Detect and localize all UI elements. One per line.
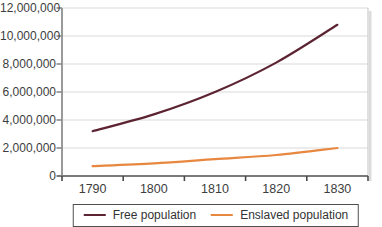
y-axis-label: 0 [0,170,56,182]
x-axis-label: 1800 [124,183,184,196]
y-axis-label: 4,000,000 [0,114,56,126]
legend-swatch-line [211,214,233,216]
legend-item-free-population: Free population [84,208,196,222]
x-axis-label: 1810 [185,183,245,196]
y-axis-label: 8,000,000 [0,58,56,70]
legend-label: Free population [113,208,196,222]
plot-shadow [369,11,372,181]
x-axis-label: 1820 [246,183,306,196]
y-axis-label: 6,000,000 [0,86,56,98]
y-axis-label: 10,000,000 [0,30,56,42]
y-axis-label: 12,000,000 [0,2,56,14]
chart-legend: Free populationEnslaved population [73,204,359,227]
legend-label: Enslaved population [240,208,348,222]
population-line-chart: 02,000,0004,000,0006,000,0008,000,00010,… [0,0,382,227]
x-axis-label: 1830 [307,183,367,196]
legend-swatch-line [84,214,106,216]
y-axis-label: 2,000,000 [0,142,56,154]
legend-item-enslaved-population: Enslaved population [211,208,348,222]
x-axis-label: 1790 [63,183,123,196]
